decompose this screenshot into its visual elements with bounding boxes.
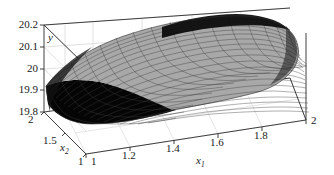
x1-tick-label-1: 1.2 (122, 150, 136, 161)
x2-tick-label-1: 1.5 (43, 135, 57, 146)
z-tick-label-3: 19.9 (6, 84, 38, 95)
x1-tick-label-5: 2 (311, 115, 317, 126)
x1-tick-label-2: 1.4 (166, 143, 180, 154)
z-tick-label-1: 20.1 (6, 41, 38, 52)
x2-tick-label-0: 2 (28, 114, 34, 125)
z-axis-title: y (48, 32, 53, 43)
x1-tick-label-4: 1.8 (254, 130, 268, 141)
surface-mesh (46, 14, 315, 124)
z-axis-ticks (40, 25, 44, 112)
x1-tick-label-0: 1 (91, 156, 97, 167)
x2-tick-label-2: 1 (78, 156, 84, 167)
x1-axis-title-sub: 1 (201, 160, 205, 169)
x2-axis-title-sub: 2 (65, 147, 69, 156)
z-tick-label-2: 20 (6, 63, 38, 74)
z-tick-label-0: 20.2 (6, 19, 38, 30)
surface-plot-figure: 20.2 20.1 20 19.9 19.8 y 2 1.5 1 x2 1 1.… (0, 0, 334, 175)
x1-axis-title: x1 (196, 155, 205, 169)
x2-axis-title: x2 (60, 142, 69, 156)
x1-tick-label-3: 1.6 (210, 137, 224, 148)
